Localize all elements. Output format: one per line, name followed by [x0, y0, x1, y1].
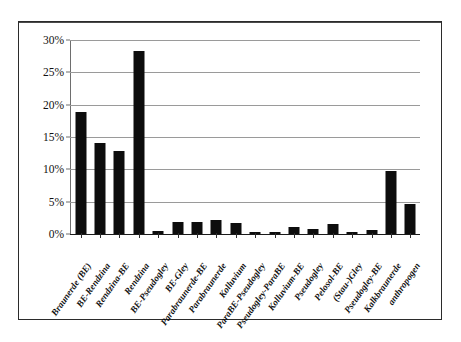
bar-slot — [401, 40, 420, 234]
x-axis-tick-mark — [81, 233, 82, 238]
bar[interactable] — [75, 112, 86, 234]
y-axis-tick-label: 10% — [43, 163, 64, 175]
bar-slot — [110, 40, 129, 234]
bar-slot — [362, 40, 381, 234]
bar[interactable] — [385, 171, 396, 234]
y-axis-tick-label: 15% — [43, 131, 64, 143]
y-axis-tick-mark — [66, 72, 70, 73]
y-axis-tick-mark — [66, 40, 70, 41]
y-axis-tick-label: 30% — [43, 34, 64, 46]
bar-slot — [187, 40, 206, 234]
bar-slot — [342, 40, 361, 234]
y-axis-tick-mark — [66, 201, 70, 202]
bar[interactable] — [95, 143, 106, 234]
bar[interactable] — [133, 51, 144, 234]
chart-figure-frame: 0%5%10%15%20%25%30% Braunerde (BE)BE-Ren… — [18, 21, 442, 320]
y-axis-tick-label: 0% — [49, 228, 64, 240]
bar-slot — [265, 40, 284, 234]
bar-slot — [71, 40, 90, 234]
bar-slot — [207, 40, 226, 234]
y-axis-tick-mark — [66, 104, 70, 105]
bar-slot — [149, 40, 168, 234]
y-axis-tick-label: 25% — [43, 66, 64, 78]
y-axis-tick-mark — [66, 169, 70, 170]
bar-slot — [90, 40, 109, 234]
bar-slot — [129, 40, 148, 234]
y-axis-tick-label: 5% — [49, 196, 64, 208]
y-axis-tick-mark — [66, 137, 70, 138]
y-axis-tick-mark — [66, 234, 70, 235]
bar-slot — [168, 40, 187, 234]
y-axis-tick-label: 20% — [43, 99, 64, 111]
bar-slot — [381, 40, 400, 234]
